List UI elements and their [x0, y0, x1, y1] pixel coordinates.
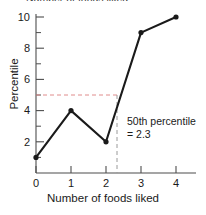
data-point [173, 14, 178, 19]
y-axis-major-ticks [36, 17, 44, 142]
chart-figure: Number of foods liked [0, 0, 206, 215]
annotation-line-1: 50th percentile [127, 115, 205, 128]
x-axis-title: Number of foods liked [0, 192, 206, 204]
y-tick-label-2: 2 [4, 136, 30, 148]
x-tick-label-4: 4 [166, 177, 186, 189]
data-point [138, 30, 143, 35]
x-tick-label-3: 3 [131, 177, 151, 189]
data-point [33, 155, 38, 160]
y-tick-label-10: 10 [4, 11, 30, 23]
x-tick-label-2: 2 [96, 177, 116, 189]
percentile-annotation: 50th percentile = 2.3 [127, 115, 205, 141]
data-point [68, 108, 73, 113]
x-tick-label-0: 0 [26, 177, 46, 189]
y-axis-title: Percentile [8, 49, 20, 119]
data-point [103, 139, 108, 144]
x-tick-label-1: 1 [61, 177, 81, 189]
x-axis-ticks [36, 166, 176, 173]
annotation-line-2: = 2.3 [127, 128, 205, 141]
